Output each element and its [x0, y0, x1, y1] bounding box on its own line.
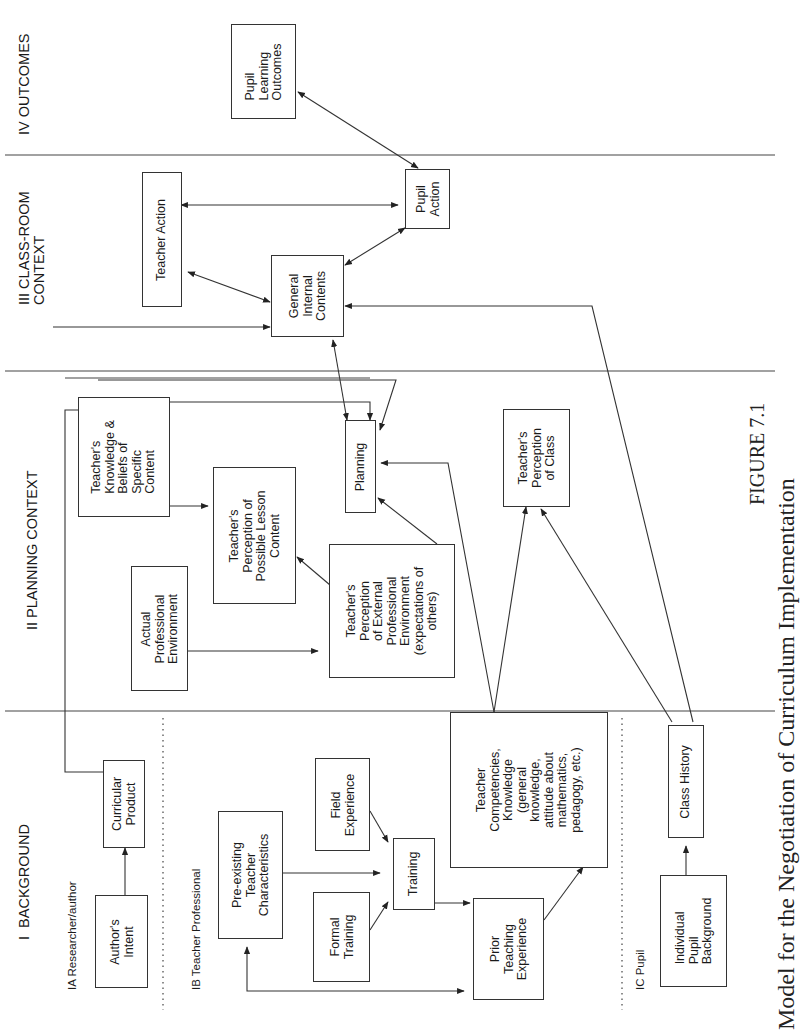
node-teacher-action: Teacher Action	[142, 172, 182, 307]
node-training: Training	[393, 838, 435, 910]
node-field-experience: Field Experience	[315, 758, 370, 851]
node-prior-teaching-experience: Prior Teaching Experience	[473, 898, 544, 1000]
node-perception-lesson-content: Teacher's Perception of Possible Lesson …	[213, 467, 296, 604]
figure-number: FIGURE 7.1	[746, 403, 769, 505]
node-perception-class: Teacher's Perception of Class	[503, 409, 570, 507]
node-pupil-action: Pupil Action	[405, 169, 450, 229]
subsection-label-researcher: IA Researcher/author	[66, 881, 78, 990]
section-label-planning: II PLANNING CONTEXT	[25, 470, 40, 630]
node-curricular-product: Curricular Product	[103, 760, 145, 848]
node-teacher-competencies: Teacher Competencies, Knowledge (general…	[450, 712, 608, 868]
section-label-outcomes: IV OUTCOMES	[17, 33, 32, 135]
section-label-background: I BACKGROUND	[17, 824, 32, 940]
node-individual-pupil-background: Individual Pupil Background	[660, 875, 727, 987]
node-actual-professional-environment: Actual Professional Environment	[131, 566, 188, 691]
node-pupil-learning-outcomes: Pupil Learning Outcomes	[231, 24, 296, 119]
node-perception-external-environment: Teacher's Perception of External Profess…	[329, 544, 455, 678]
node-pre-existing-characteristics: Pre-existing Teacher Characteristics	[218, 811, 283, 939]
node-knowledge-beliefs: Teacher's Knowledge & Beliefs of Specifi…	[78, 397, 170, 517]
node-planning: Planning	[345, 420, 376, 513]
subsection-label-teacher-professional: IB Teacher Professional	[190, 869, 202, 990]
section-label-classroom: III CLASS-ROOM CONTEXT	[17, 191, 47, 305]
node-authors-intent: Author's Intent	[95, 895, 148, 988]
figure-title: Model for the Negotiation of Curriculum …	[773, 478, 800, 1030]
subsection-label-pupil: IC Pupil	[634, 950, 646, 990]
node-general-internal-contents: General Internal Contents	[271, 255, 344, 337]
node-class-history: Class History	[668, 725, 704, 838]
node-formal-training: Formal Training	[313, 892, 370, 982]
